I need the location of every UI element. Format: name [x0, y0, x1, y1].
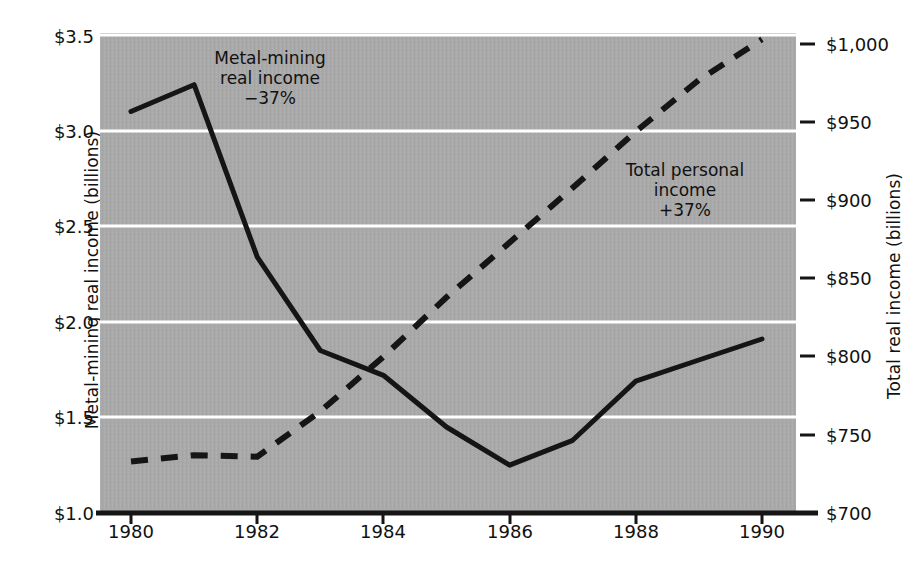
- annotation-metal-line-1: Metal-mining: [172, 48, 368, 68]
- annotation-total-line-3: +37%: [590, 200, 780, 220]
- annotation-total-line-2: income: [590, 180, 780, 200]
- annotation-total-personal: Total personal income +37%: [590, 160, 780, 220]
- annotation-metal-mining: Metal-mining real income −37%: [172, 48, 368, 108]
- annotation-metal-line-2: real income: [172, 68, 368, 88]
- annotation-metal-line-3: −37%: [172, 88, 368, 108]
- chart-figure: Metal-mining real income (billions) Tota…: [0, 0, 912, 572]
- plot-area: [0, 0, 912, 572]
- annotation-total-line-1: Total personal: [590, 160, 780, 180]
